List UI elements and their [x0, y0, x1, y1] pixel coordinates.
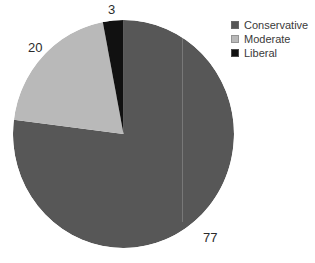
pie-chart: 3 20 77 Conservative Moderate Liberal [0, 0, 315, 263]
legend-swatch-conservative-icon [231, 21, 239, 29]
legend-item-liberal[interactable]: Liberal [231, 46, 315, 60]
slice-value-label-conservative: 77 [203, 231, 217, 244]
legend-item-conservative[interactable]: Conservative [231, 18, 315, 32]
chart-legend: Conservative Moderate Liberal [231, 18, 315, 60]
slice-value-label-liberal: 3 [108, 3, 115, 16]
slice-value-label-moderate: 20 [28, 41, 42, 54]
legend-label-moderate: Moderate [244, 34, 290, 45]
legend-item-moderate[interactable]: Moderate [231, 32, 315, 46]
legend-label-liberal: Liberal [244, 48, 277, 59]
legend-label-conservative: Conservative [244, 20, 308, 31]
legend-swatch-moderate-icon [231, 35, 239, 43]
legend-swatch-liberal-icon [231, 49, 239, 57]
